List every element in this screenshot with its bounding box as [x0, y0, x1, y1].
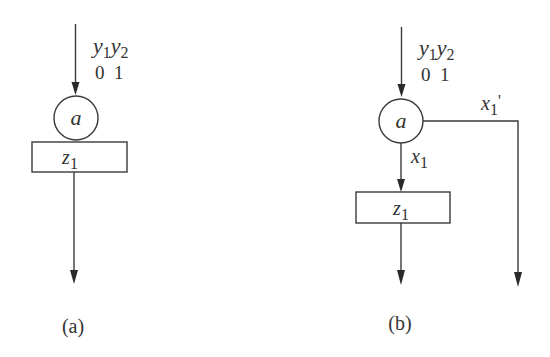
arrow-head-icon: [398, 84, 406, 97]
decision-node-label: a: [396, 108, 407, 133]
decision-node-label: a: [71, 105, 82, 130]
arrow-head-icon: [514, 272, 522, 287]
branch-false-label: x1': [480, 92, 501, 118]
arrow-head-icon: [70, 270, 78, 284]
operation-box: [32, 142, 127, 172]
input-label-y1y2: y1y2: [417, 35, 455, 63]
arrow-head-icon: [72, 82, 80, 95]
diagram-a: y1y2 0 1 a z1 (a): [32, 24, 129, 338]
flow-diagram: y1y2 0 1 a z1 (a) y1y2 0 1 a x1': [0, 0, 550, 357]
input-label-y1y2: y1y2: [91, 33, 129, 61]
input-values: 0 1: [95, 62, 124, 83]
input-values: 0 1: [421, 64, 450, 85]
caption-a: (a): [62, 315, 84, 338]
arrow-head-icon: [397, 270, 405, 285]
branch-true-label: x1: [410, 145, 428, 171]
caption-b: (b): [388, 312, 411, 335]
arrow-head-icon: [397, 179, 405, 192]
diagram-b: y1y2 0 1 a x1' x1 z1 (b): [356, 27, 522, 335]
